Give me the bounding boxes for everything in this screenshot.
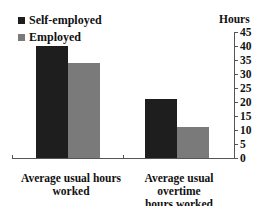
y-tick <box>235 74 238 75</box>
bar-employed <box>177 127 209 158</box>
x-label-1: Average usual hours worked <box>12 172 130 198</box>
legend-label: Self-employed <box>29 13 102 28</box>
legend: Self-employed Employed <box>18 12 102 46</box>
y-axis-line <box>234 32 235 159</box>
y-tick <box>235 102 238 103</box>
legend-swatch-self-employed <box>18 17 25 24</box>
legend-item-self-employed: Self-employed <box>18 12 102 29</box>
y-tick <box>235 116 238 117</box>
legend-label: Employed <box>29 30 81 45</box>
x-label-line: worked <box>12 185 130 198</box>
y-tick-label: 5 <box>240 139 246 149</box>
x-label-line: Average usual overtime <box>124 172 234 198</box>
y-tick <box>235 88 238 89</box>
y-tick-label: 30 <box>240 69 252 79</box>
bar-employed <box>68 63 100 158</box>
bar-self-employed <box>36 46 68 158</box>
legend-swatch-employed <box>18 34 25 41</box>
y-axis-title: Hours <box>219 13 250 25</box>
y-tick-label: 15 <box>240 111 252 121</box>
y-tick-label: 45 <box>240 27 252 37</box>
legend-item-employed: Employed <box>18 29 102 46</box>
x-tick <box>12 155 13 159</box>
y-tick-label: 20 <box>240 97 252 107</box>
x-label-line: Average usual hours <box>12 172 130 185</box>
x-label-line: hours worked <box>124 198 234 206</box>
x-label-2: Average usual overtime hours worked <box>124 172 234 206</box>
y-tick <box>235 32 238 33</box>
y-tick-label: 0 <box>240 153 246 163</box>
bar-self-employed <box>145 99 177 158</box>
y-tick <box>235 158 238 159</box>
x-tick <box>123 155 124 159</box>
y-tick <box>235 60 238 61</box>
y-tick-label: 10 <box>240 125 252 135</box>
y-tick <box>235 46 238 47</box>
y-tick <box>235 144 238 145</box>
y-tick-label: 25 <box>240 83 252 93</box>
y-tick-label: 35 <box>240 55 252 65</box>
y-tick-label: 40 <box>240 41 252 51</box>
y-tick <box>235 130 238 131</box>
